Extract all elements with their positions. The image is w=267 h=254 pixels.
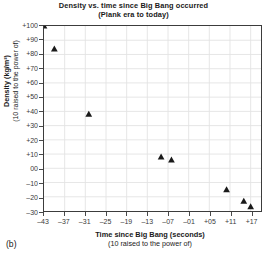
y-tick-mark — [39, 126, 43, 127]
x-axis-title-main: Time since Big Bang (seconds) — [33, 230, 267, 239]
y-tick-mark — [39, 97, 43, 98]
y-tick-mark — [39, 54, 43, 55]
y-tick-label: –20 — [12, 194, 38, 201]
x-tick-mark — [231, 212, 232, 216]
y-tick-label: +10 — [12, 151, 38, 158]
y-tick-mark — [39, 68, 43, 69]
y-axis-title-sub: (10 raised to the power of) — [12, 16, 21, 146]
y-tick-mark — [39, 198, 43, 199]
x-tick-label: +17 — [240, 218, 264, 225]
x-tick-mark — [64, 212, 65, 216]
data-point — [240, 198, 247, 204]
x-tick-mark — [189, 212, 190, 216]
data-points-layer — [44, 26, 261, 211]
y-tick-label: 00 — [12, 165, 38, 172]
y-axis-title-main: Density (kg/m³) — [3, 16, 12, 146]
y-axis-title: Density (kg/m³) (10 raised to the power … — [3, 16, 21, 146]
data-point — [247, 203, 254, 209]
data-point — [85, 111, 92, 117]
y-tick-mark — [39, 154, 43, 155]
data-point — [168, 156, 175, 162]
x-tick-mark — [106, 212, 107, 216]
y-tick-mark — [39, 111, 43, 112]
x-axis-title: Time since Big Bang (seconds) (10 raised… — [33, 230, 267, 248]
data-point — [44, 26, 47, 29]
data-point — [223, 186, 230, 192]
x-tick-mark — [43, 212, 44, 216]
x-tick-mark — [126, 212, 127, 216]
y-tick-mark — [39, 39, 43, 40]
plot-area — [43, 25, 262, 212]
chart-title: Density vs. time since Big Bang occurred — [0, 1, 267, 10]
x-axis-title-sub: (10 raised to the power of) — [33, 239, 267, 248]
figure-container: Density vs. time since Big Bang occurred… — [0, 0, 267, 254]
x-tick-mark — [85, 212, 86, 216]
data-point — [158, 154, 165, 160]
y-tick-label: –10 — [12, 180, 38, 187]
x-tick-mark — [252, 212, 253, 216]
x-tick-mark — [147, 212, 148, 216]
figure-caption: (b) — [6, 239, 17, 249]
data-point — [51, 45, 58, 51]
y-tick-mark — [39, 169, 43, 170]
chart-title-block: Density vs. time since Big Bang occurred… — [0, 1, 267, 19]
y-tick-mark — [39, 140, 43, 141]
x-tick-mark — [168, 212, 169, 216]
y-tick-mark — [39, 83, 43, 84]
chart-subtitle: (Plank era to today) — [0, 10, 267, 19]
y-tick-mark — [39, 25, 43, 26]
y-tick-mark — [39, 183, 43, 184]
y-tick-label: –30 — [12, 209, 38, 216]
x-tick-mark — [210, 212, 211, 216]
